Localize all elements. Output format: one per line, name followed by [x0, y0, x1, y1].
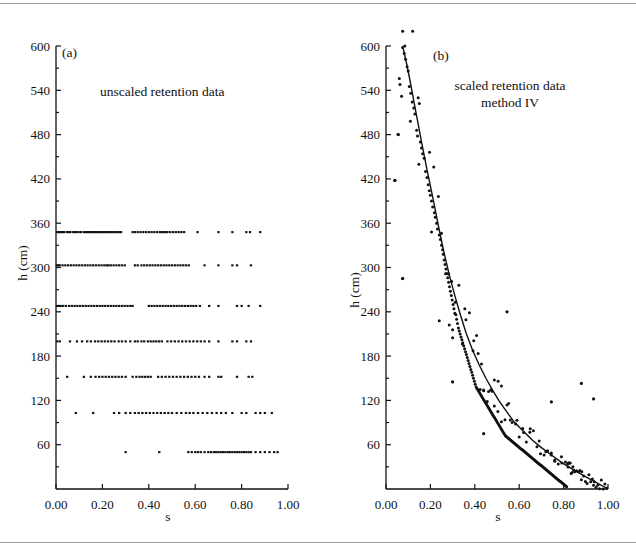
data-point: [432, 166, 435, 169]
data-point: [231, 231, 233, 233]
data-point: [129, 305, 131, 307]
data-point: [154, 264, 156, 266]
data-point: [247, 305, 249, 307]
data-point: [141, 376, 143, 378]
data-point: [451, 328, 454, 331]
data-point: [447, 273, 450, 276]
data-point: [415, 129, 418, 132]
data-point: [605, 487, 608, 490]
data-point: [438, 319, 441, 322]
data-point: [206, 412, 208, 414]
data-point: [173, 305, 175, 307]
data-point: [73, 305, 75, 307]
data-point: [69, 340, 71, 342]
data-point: [118, 305, 120, 307]
panel-b-caption-line-2: method IV: [481, 95, 539, 110]
data-point: [458, 330, 461, 333]
data-point: [138, 376, 140, 378]
data-point: [134, 231, 136, 233]
x-tick-label: 0.00: [45, 497, 68, 512]
data-point: [518, 435, 521, 438]
data-point: [450, 280, 453, 283]
data-point: [192, 340, 194, 342]
data-point: [179, 264, 181, 266]
data-point: [264, 412, 266, 414]
data-point: [143, 340, 145, 342]
panel-b-svg: 600540480420360300240180120600.000.200.4…: [318, 0, 636, 546]
data-point: [85, 305, 87, 307]
data-point: [167, 305, 169, 307]
data-point: [463, 307, 466, 310]
panel-a-unscaled: 600540480420360300240180120600.000.200.4…: [0, 0, 318, 546]
data-point: [152, 412, 154, 414]
data-point: [245, 340, 247, 342]
y-tick-label: 540: [361, 83, 381, 98]
data-point: [440, 244, 443, 247]
y-tick-label: 360: [31, 216, 51, 231]
data-point: [121, 340, 123, 342]
data-point: [191, 451, 193, 453]
data-point: [582, 475, 585, 478]
data-point: [245, 231, 247, 233]
data-point: [97, 340, 99, 342]
data-point-outlier: [505, 310, 508, 313]
data-point: [107, 305, 109, 307]
data-point: [190, 376, 192, 378]
y-tick-label: 180: [361, 349, 381, 364]
data-point: [273, 451, 275, 453]
data-point: [129, 340, 131, 342]
data-point: [245, 451, 247, 453]
data-point: [137, 264, 139, 266]
data-point: [431, 205, 434, 208]
data-point: [200, 340, 202, 342]
data-point: [108, 376, 110, 378]
data-point: [447, 281, 450, 284]
data-point: [444, 263, 447, 266]
data-point: [567, 465, 570, 468]
data-point: [194, 376, 196, 378]
data-point: [187, 376, 189, 378]
data-point: [245, 412, 247, 414]
data-point: [428, 189, 431, 192]
data-point: [449, 290, 452, 293]
data-point: [525, 441, 528, 444]
data-point: [177, 340, 179, 342]
data-point: [217, 451, 219, 453]
data-point: [259, 305, 261, 307]
data-point: [172, 376, 174, 378]
data-point: [185, 412, 187, 414]
data-point: [550, 453, 553, 456]
data-point: [598, 487, 601, 490]
data-point: [503, 418, 506, 421]
data-point: [78, 264, 80, 266]
y-tick-label: 60: [367, 437, 380, 452]
data-point: [231, 412, 233, 414]
data-point: [86, 340, 88, 342]
data-point: [174, 264, 176, 266]
data-point: [98, 376, 100, 378]
data-point: [400, 95, 403, 98]
data-point: [148, 231, 150, 233]
data-point: [129, 412, 131, 414]
x-tick-label: 0.20: [91, 497, 114, 512]
data-point: [211, 412, 213, 414]
data-point: [94, 376, 96, 378]
data-point: [440, 232, 443, 235]
data-point: [160, 412, 162, 414]
data-point: [156, 305, 158, 307]
data-point: [468, 365, 471, 368]
data-point: [473, 380, 476, 383]
data-point: [444, 272, 447, 275]
data-point: [439, 238, 442, 241]
data-point: [234, 451, 236, 453]
data-point: [112, 264, 114, 266]
data-point: [424, 170, 427, 173]
data-point: [430, 200, 433, 203]
data-point: [521, 427, 524, 430]
data-point: [196, 231, 198, 233]
data-point: [448, 324, 451, 327]
data-point: [217, 231, 219, 233]
data-point: [259, 412, 261, 414]
data-point: [126, 305, 128, 307]
data-point: [90, 376, 92, 378]
